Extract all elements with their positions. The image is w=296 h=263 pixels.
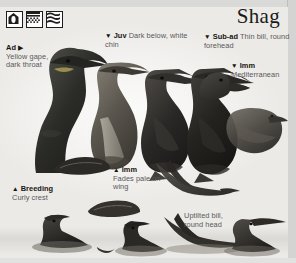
shag-distant-flying [96, 245, 116, 255]
label-subadult: ▼ Sub-ad Thin bill, round forehead [204, 33, 292, 50]
label-breeding-arrow: ▲ [12, 185, 19, 192]
label-immature-mediterranean-desc: Mediterranean [231, 70, 279, 79]
label-uptilted-bill: Uptilted bill, round head [184, 212, 244, 229]
label-immature-mediterranean: ▼ Imm Mediterranean [231, 62, 291, 79]
open-sea-icon[interactable] [46, 11, 63, 28]
label-uptilted-bill-desc: Uptilted bill, round head [184, 211, 223, 229]
label-immature-wing: ▲ Imm Fades pale on wing [113, 166, 171, 192]
rocky-coast-icon[interactable] [26, 11, 43, 28]
label-adult-desc: Yellow gape, dark throat [6, 52, 48, 70]
label-adult-arrow: ▶ [18, 44, 23, 51]
label-breeding-desc: Curly crest [12, 193, 48, 202]
shag-wing-detail-upper [52, 155, 112, 177]
page-title: Shag [237, 4, 280, 29]
label-immature-wing-arrow: ▲ [113, 166, 120, 173]
label-immature-wing-desc: Fades pale on wing [113, 174, 161, 192]
label-immature-mediterranean-arrow: ▼ [231, 62, 238, 69]
habitat-icon-group [6, 11, 63, 28]
nest-site-icon[interactable] [6, 11, 23, 28]
label-breeding: ▲ Breeding Curly crest [12, 185, 78, 202]
label-adult: Ad ▶ Yellow gape, dark throat [6, 44, 54, 70]
shag-swimming-left [30, 213, 100, 261]
label-subadult-arrow: ▼ [204, 33, 211, 40]
field-guide-page: Shag Ad ▶ Yellow gape, dark throat ▼ Juv… [0, 0, 296, 263]
label-juvenile: ▼ Juv Dark below, white chin [105, 32, 189, 49]
label-juvenile-arrow: ▼ [105, 32, 112, 39]
